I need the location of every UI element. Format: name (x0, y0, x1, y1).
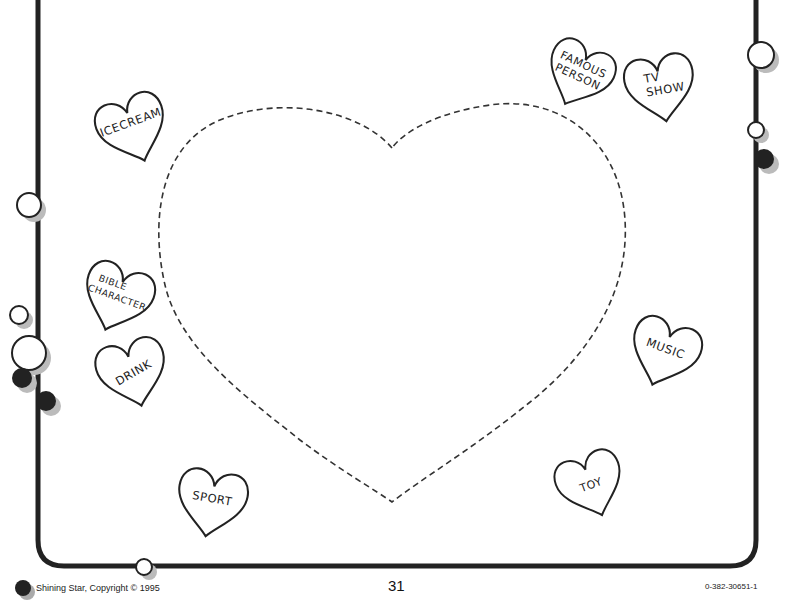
page-number: 31 (388, 577, 405, 594)
heart-music: MUSIC (620, 311, 707, 396)
heart-drink: DRINK (91, 333, 175, 414)
heart-toy: TOY (550, 445, 633, 527)
heart-famous-person: FAMOUS PERSON (535, 33, 621, 118)
heart-bible-character: BIBLE CHARACTER (73, 256, 160, 341)
heart-icecream: ICECREAM (90, 87, 177, 172)
large-dashed-heart (159, 104, 626, 502)
heart-tv-show: TV SHOW (621, 51, 700, 128)
isbn: 0-382-30651-1 (705, 582, 757, 591)
worksheet-canvas: ICECREAM FAMOUS PERSON TV SHOW BIBLE CHA… (0, 0, 787, 608)
publisher-credit: Shining Star, Copyright © 1995 (36, 583, 160, 593)
heart-sport: SPORT (172, 466, 251, 543)
